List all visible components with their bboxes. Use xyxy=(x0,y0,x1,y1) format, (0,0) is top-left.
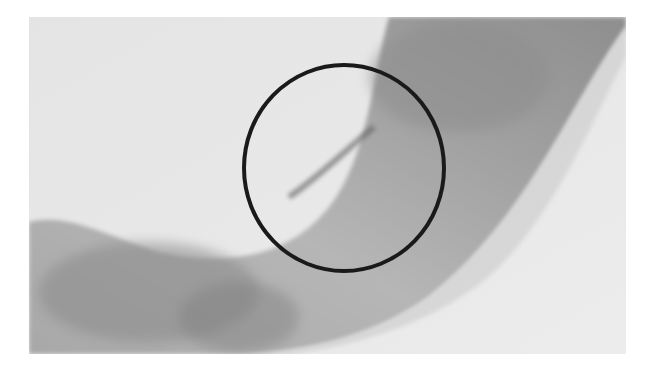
photo-canvas xyxy=(29,17,626,354)
photo xyxy=(29,17,626,354)
